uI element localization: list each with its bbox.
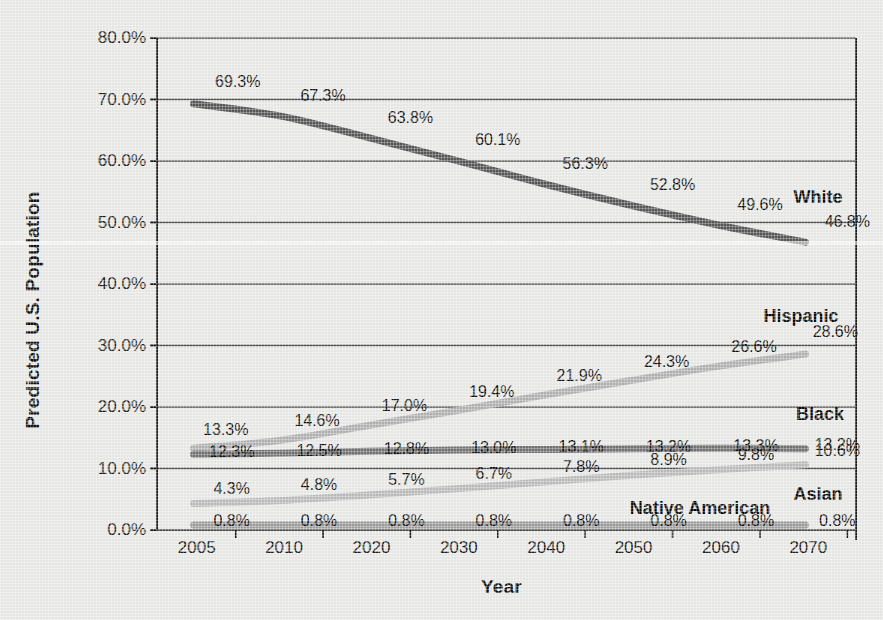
data-label-native-american-2040: 0.8%: [563, 512, 599, 530]
data-label-native-american-2005: 0.8%: [213, 512, 249, 530]
data-label-hispanic-2050: 24.3%: [644, 353, 689, 371]
x-tick-label: 2030: [440, 538, 478, 558]
y-tick-label: 20.0%: [98, 397, 146, 417]
y-tick-label: 60.0%: [98, 151, 146, 171]
data-label-black-2005: 12.3%: [209, 443, 254, 461]
data-label-black-2040: 13.1%: [559, 438, 604, 456]
data-label-hispanic-2030: 19.4%: [469, 383, 514, 401]
series-label-native-american: Native American: [630, 498, 770, 519]
x-tick-label: 2010: [265, 538, 303, 558]
data-label-white-2070: 46.8%: [825, 213, 870, 231]
chart-container: Predicted U.S. Population Year 0.0%10.0%…: [0, 0, 883, 620]
y-tick-label: 50.0%: [98, 213, 146, 233]
y-tick-label: 0.0%: [107, 520, 146, 540]
y-tick-label: 70.0%: [98, 90, 146, 110]
data-label-asian-2005: 4.3%: [213, 480, 249, 498]
x-tick-label: 2020: [353, 538, 391, 558]
x-axis-title: Year: [0, 576, 883, 598]
data-label-hispanic-2020: 17.0%: [382, 397, 427, 415]
data-label-native-american-2010: 0.8%: [301, 512, 337, 530]
data-label-asian-2020: 5.7%: [388, 471, 424, 489]
data-label-native-american-2020: 0.8%: [388, 512, 424, 530]
x-tick-label: 2060: [702, 538, 740, 558]
y-tick-label: 10.0%: [98, 459, 146, 479]
data-label-black-2030: 13.0%: [471, 439, 516, 457]
data-label-hispanic-2005: 13.3%: [203, 421, 248, 439]
data-label-white-2060: 49.6%: [737, 196, 782, 214]
x-tick-label: 2005: [178, 538, 216, 558]
y-axis-title-text: Predicted U.S. Population: [22, 140, 44, 480]
data-label-hispanic-2060: 26.6%: [731, 338, 776, 356]
x-tick-label: 2070: [789, 538, 827, 558]
data-label-asian-2070: 10.6%: [815, 442, 860, 460]
y-tick-label: 40.0%: [98, 274, 146, 294]
data-label-white-2050: 52.8%: [650, 176, 695, 194]
data-label-asian-2060: 9.8%: [738, 446, 774, 464]
x-tick-label: 2040: [527, 538, 565, 558]
data-label-black-2010: 12.5%: [296, 442, 341, 460]
data-label-black-2020: 12.8%: [384, 440, 429, 458]
series-line-hispanic: [194, 354, 806, 448]
data-label-asian-2010: 4.8%: [301, 476, 337, 494]
series-line-white: [194, 104, 806, 242]
series-label-black: Black: [796, 404, 844, 425]
x-tick-label: 2050: [615, 538, 653, 558]
data-label-asian-2030: 6.7%: [476, 465, 512, 483]
data-label-asian-2050: 8.9%: [650, 451, 686, 469]
data-label-native-american-2030: 0.8%: [476, 512, 512, 530]
data-label-white-2030: 60.1%: [475, 131, 520, 149]
data-label-white-2040: 56.3%: [563, 155, 608, 173]
data-label-hispanic-2040: 21.9%: [557, 367, 602, 385]
y-axis-title: Predicted U.S. Population: [22, 0, 44, 140]
series-label-asian: Asian: [793, 484, 842, 505]
data-label-hispanic-2010: 14.6%: [294, 412, 339, 430]
series-label-hispanic: Hispanic: [763, 306, 838, 327]
data-label-native-american-2070: 0.8%: [819, 512, 855, 530]
series-label-white: White: [794, 187, 843, 208]
data-label-asian-2040: 7.8%: [563, 458, 599, 476]
data-label-white-2020: 63.8%: [388, 109, 433, 127]
y-tick-label: 80.0%: [98, 28, 146, 48]
data-label-white-2005: 69.3%: [215, 73, 260, 91]
y-tick-label: 30.0%: [98, 336, 146, 356]
data-label-white-2010: 67.3%: [300, 87, 345, 105]
